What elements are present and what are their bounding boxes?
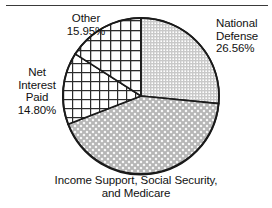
pie-label-net-interest-line1: Net	[6, 66, 68, 79]
pie-label-other-value: 15.95%	[50, 25, 122, 38]
pie-caption-income-support: Income Support, Social Security, and Med…	[0, 174, 272, 200]
pie-label-net-interest-line3: Paid	[6, 91, 68, 104]
pie-label-national-defense-line1: National	[216, 17, 258, 30]
pie-label-national-defense-line2: Defense	[216, 30, 258, 43]
pie-label-net-interest-value: 14.80%	[6, 104, 68, 117]
pie-label-net-interest-line2: Interest	[6, 79, 68, 92]
pie-slice-national-defense	[141, 18, 219, 104]
pie-label-other: Other 15.95%	[50, 12, 122, 37]
pie-label-other-line1: Other	[50, 12, 122, 25]
pie-chart-figure: National Defense 26.56% Other 15.95% Net…	[0, 0, 272, 208]
pie-label-national-defense-value: 26.56%	[216, 42, 258, 55]
pie-caption-line1: Income Support, Social Security,	[0, 174, 272, 187]
pie-label-net-interest-paid: Net Interest Paid 14.80%	[6, 66, 68, 116]
pie-caption-line2: and Medicare	[0, 187, 272, 200]
pie-label-national-defense: National Defense 26.56%	[216, 17, 258, 55]
